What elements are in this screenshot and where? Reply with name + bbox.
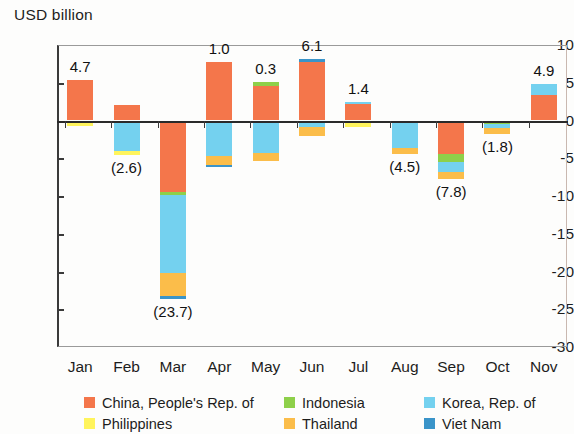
bar-segment[interactable] bbox=[299, 59, 325, 62]
x-axis-tick-label: Apr bbox=[207, 358, 231, 376]
legend-item[interactable]: Viet Nam bbox=[424, 416, 564, 432]
x-axis-tick-mark bbox=[343, 121, 344, 128]
bar-value-label: 4.7 bbox=[70, 58, 91, 75]
x-axis-tick-label: Jan bbox=[68, 358, 93, 376]
bar-segment[interactable] bbox=[253, 82, 279, 86]
bar-segment[interactable] bbox=[253, 86, 279, 121]
bar-segment[interactable] bbox=[206, 62, 232, 120]
bar-segment[interactable] bbox=[206, 121, 232, 156]
x-axis-tick-mark bbox=[250, 121, 251, 128]
bar-group[interactable] bbox=[206, 45, 232, 347]
legend-item[interactable]: China, People's Rep. of bbox=[84, 395, 284, 411]
bar-segment[interactable] bbox=[345, 104, 371, 121]
bar-segment[interactable] bbox=[438, 154, 464, 162]
x-axis-tick-mark bbox=[436, 121, 437, 128]
bar-segment[interactable] bbox=[531, 84, 557, 95]
bar-segment[interactable] bbox=[484, 128, 510, 134]
bar-segment[interactable] bbox=[345, 102, 371, 104]
legend-item-label: China, People's Rep. of bbox=[102, 395, 254, 411]
x-axis-tick-label: Mar bbox=[160, 358, 187, 376]
x-axis-tick-label: Nov bbox=[530, 358, 558, 376]
bar-value-label: (23.7) bbox=[153, 303, 192, 320]
bar-value-label: 1.0 bbox=[209, 40, 230, 57]
bar-segment[interactable] bbox=[160, 195, 186, 273]
bar-group[interactable] bbox=[67, 45, 93, 347]
legend-item[interactable]: Philippines bbox=[84, 416, 284, 432]
bar-segment[interactable] bbox=[114, 121, 140, 151]
bar-value-label: 4.9 bbox=[533, 62, 554, 79]
x-axis-tick-mark bbox=[482, 121, 483, 128]
legend-item[interactable]: Thailand bbox=[284, 416, 424, 432]
bar-segment[interactable] bbox=[206, 165, 232, 167]
x-axis-tick-label: Feb bbox=[113, 358, 140, 376]
zero-baseline bbox=[57, 121, 568, 123]
x-axis-tick-mark bbox=[111, 121, 112, 128]
bar-segment[interactable] bbox=[206, 156, 232, 165]
bar-segment[interactable] bbox=[67, 80, 93, 121]
x-axis-tick-mark bbox=[390, 121, 391, 128]
bar-value-label: (7.8) bbox=[436, 183, 467, 200]
bar-segment[interactable] bbox=[531, 95, 557, 121]
bar-segment[interactable] bbox=[160, 121, 186, 193]
x-axis-tick-label: May bbox=[251, 358, 280, 376]
legend-swatch-icon bbox=[284, 418, 295, 429]
legend-swatch-icon bbox=[84, 397, 95, 408]
legend-swatch-icon bbox=[424, 397, 435, 408]
legend-item-label: Korea, Rep. of bbox=[442, 395, 536, 411]
bar-segment[interactable] bbox=[392, 123, 418, 148]
bar-group[interactable] bbox=[114, 45, 140, 347]
bar-segment[interactable] bbox=[438, 172, 464, 180]
bar-value-label: (4.5) bbox=[389, 158, 420, 175]
axis-unit-label: USD billion bbox=[14, 6, 93, 24]
bar-group[interactable] bbox=[484, 45, 510, 347]
bar-group[interactable] bbox=[531, 45, 557, 347]
legend-item[interactable]: Indonesia bbox=[284, 395, 424, 411]
bar-group[interactable] bbox=[299, 45, 325, 347]
bar-segment[interactable] bbox=[392, 148, 418, 155]
x-axis-tick-label: Sep bbox=[437, 358, 465, 376]
bar-chart: USD billion 1050-5-10-15-20-25-30 4.7(2.… bbox=[0, 0, 574, 434]
bar-value-label: (2.6) bbox=[111, 159, 142, 176]
bar-segment[interactable] bbox=[114, 151, 140, 156]
bar-segment[interactable] bbox=[160, 296, 186, 299]
legend-item-label: Philippines bbox=[102, 416, 172, 432]
legend-swatch-icon bbox=[284, 397, 295, 408]
legend-item-label: Thailand bbox=[302, 416, 358, 432]
x-axis-tick-mark bbox=[529, 121, 530, 128]
bar-segment[interactable] bbox=[299, 62, 325, 121]
legend-item-label: Indonesia bbox=[302, 395, 365, 411]
bar-value-label: 6.1 bbox=[302, 37, 323, 54]
legend: China, People's Rep. ofIndonesiaKorea, R… bbox=[84, 392, 554, 434]
bar-group[interactable] bbox=[392, 45, 418, 347]
legend-item-label: Viet Nam bbox=[442, 416, 501, 432]
x-axis-tick-mark bbox=[65, 121, 66, 128]
bar-segment[interactable] bbox=[114, 105, 140, 120]
bar-segment[interactable] bbox=[438, 121, 464, 155]
x-axis-tick-label: Oct bbox=[485, 358, 509, 376]
x-axis-tick-mark bbox=[204, 121, 205, 128]
x-axis-tick-label: Jul bbox=[348, 358, 368, 376]
bar-value-label: 0.3 bbox=[255, 60, 276, 77]
x-axis-tick-label: Jun bbox=[300, 358, 325, 376]
bar-segment[interactable] bbox=[253, 121, 279, 153]
bar-segment[interactable] bbox=[438, 162, 464, 172]
bar-segment[interactable] bbox=[253, 153, 279, 161]
legend-swatch-icon bbox=[84, 418, 95, 429]
x-axis-tick-mark bbox=[297, 121, 298, 128]
bar-group[interactable] bbox=[253, 45, 279, 347]
legend-item[interactable]: Korea, Rep. of bbox=[424, 395, 564, 411]
x-axis-tick-label: Aug bbox=[391, 358, 419, 376]
bar-value-label: (1.8) bbox=[482, 138, 513, 155]
bar-group[interactable] bbox=[160, 45, 186, 347]
bar-segment[interactable] bbox=[299, 127, 325, 136]
x-axis-tick-mark bbox=[158, 121, 159, 128]
bar-value-label: 1.4 bbox=[348, 80, 369, 97]
legend-swatch-icon bbox=[424, 418, 435, 429]
bar-segment[interactable] bbox=[160, 273, 186, 296]
